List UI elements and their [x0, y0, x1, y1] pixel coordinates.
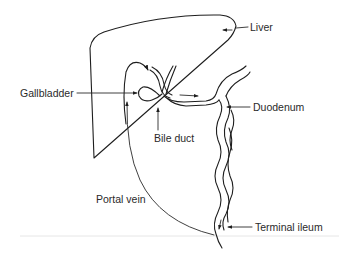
portal-vein-curve — [127, 102, 214, 235]
duodenum-and-intestine — [214, 72, 250, 248]
gallbladder-label: Gallbladder — [20, 87, 74, 99]
terminal-ileum-label: Terminal ileum — [255, 221, 323, 233]
liver-label: Liver — [250, 21, 273, 33]
bile-flow-arrow — [180, 95, 198, 96]
gallbladder-shape — [139, 87, 163, 101]
bile-duct-label: Bile duct — [154, 132, 194, 144]
portal-vein-label: Portal vein — [96, 193, 146, 205]
hepatic-duct — [150, 66, 176, 98]
enterohepatic-circulation-diagram: Liver Gallbladder Bile duct Duodenum — [0, 0, 339, 254]
ileum-flow-arrow — [219, 220, 221, 229]
duodenum-label: Duodenum — [253, 101, 305, 113]
